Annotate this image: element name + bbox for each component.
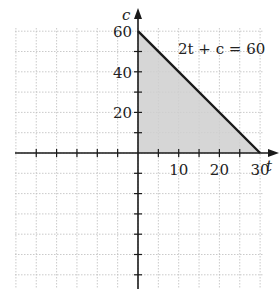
x-tick-label: 10 [169, 161, 188, 179]
problem-number: 60. [8, 0, 36, 2]
x-tick-label: 20 [210, 161, 229, 179]
graph: 102030204060 60. t c 2t + c = 60 [0, 0, 279, 291]
equation-label: 2t + c = 60 [178, 40, 265, 58]
y-axis-label: c [122, 6, 131, 24]
y-tick-label: 40 [113, 64, 132, 82]
y-tick-label: 20 [113, 104, 132, 122]
x-axis-label: t [266, 157, 273, 175]
y-tick-label: 60 [113, 23, 132, 41]
